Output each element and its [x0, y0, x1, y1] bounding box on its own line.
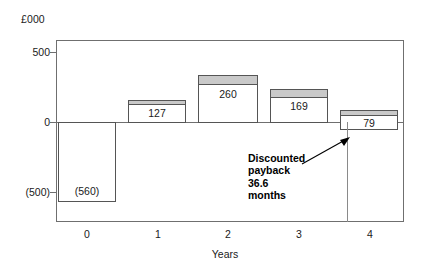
- bar-year-1: 127: [128, 100, 186, 123]
- x-axis-tick-label-3: 3: [279, 228, 319, 240]
- bar-value-label-year-0: (560): [59, 185, 115, 197]
- bar-value-label-year-1: 127: [128, 107, 186, 119]
- y-axis-tick-label-minus-500: (500): [2, 186, 50, 198]
- x-axis-tick-label-1: 1: [138, 228, 178, 240]
- bar-year-0: (560): [58, 122, 116, 202]
- bar-year-2: 260: [198, 75, 258, 123]
- discounted-payback-annotation: Discounted payback 36.6 months: [248, 152, 305, 202]
- bar-value-label-year-3: 169: [270, 100, 328, 112]
- x-axis-title: Years: [0, 248, 428, 260]
- annotation-line-1: Discounted: [248, 152, 305, 164]
- y-tick-mark-m500: [50, 192, 56, 193]
- x-axis-title-text: Years: [212, 248, 238, 260]
- y-axis-unit-caption: £000: [21, 13, 45, 25]
- annotation-line-2: payback: [248, 164, 305, 176]
- bar-value-label-year-2: 260: [198, 88, 258, 100]
- y-axis-tick-label-500: 500: [6, 46, 50, 58]
- bar-year-3: 169: [270, 89, 328, 123]
- bar-value-label-year-4: 79: [340, 117, 398, 129]
- x-axis-tick-label-2: 2: [208, 228, 248, 240]
- chart-canvas: £000 500 0 (500) (560) 127 260 169 79: [0, 0, 428, 278]
- y-axis-tick-label-0: 0: [6, 116, 50, 128]
- bar-year-4: 79: [340, 110, 398, 130]
- annotation-line-3: 36.6: [248, 177, 305, 189]
- x-axis-tick-label-4: 4: [350, 228, 390, 240]
- annotation-line-4: months: [248, 189, 305, 201]
- y-tick-mark-500: [50, 52, 56, 53]
- annotation-arrow-icon: [300, 136, 354, 166]
- x-axis-tick-label-0: 0: [67, 228, 107, 240]
